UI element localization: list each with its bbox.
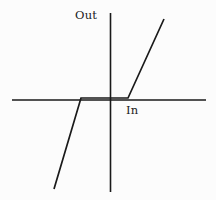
figure-canvas: Out In (0, 0, 216, 200)
transfer-curve (54, 19, 164, 189)
x-axis-label: In (126, 105, 138, 117)
transfer-characteristic-plot (0, 0, 216, 200)
y-axis-label: Out (75, 10, 97, 22)
